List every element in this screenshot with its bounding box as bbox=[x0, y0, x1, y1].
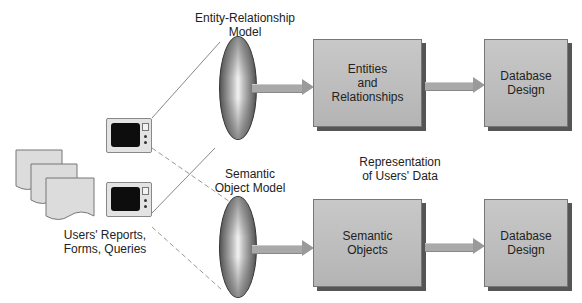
er-model-label: Entity-Relationship Model bbox=[185, 11, 305, 39]
arrow-right-icon bbox=[425, 241, 485, 251]
monitor-icon-top bbox=[106, 118, 152, 153]
semantic-objects-box: Semantic Objects bbox=[313, 199, 422, 287]
semantic-object-model-label: Semantic Object Model bbox=[200, 167, 300, 195]
arrow-right-icon bbox=[425, 80, 485, 90]
entities-relationships-box: Entities and Relationships bbox=[313, 39, 422, 127]
arrow-right-icon bbox=[252, 243, 314, 253]
representation-label: Representation of Users' Data bbox=[330, 155, 470, 183]
monitor-icon-bottom bbox=[106, 182, 152, 217]
database-design-box-top: Database Design bbox=[484, 39, 568, 127]
documents-icon bbox=[14, 148, 98, 223]
source-label: Users' Reports, Forms, Queries bbox=[40, 228, 170, 256]
arrow-right-icon bbox=[252, 82, 314, 92]
database-design-box-bottom: Database Design bbox=[484, 199, 568, 287]
